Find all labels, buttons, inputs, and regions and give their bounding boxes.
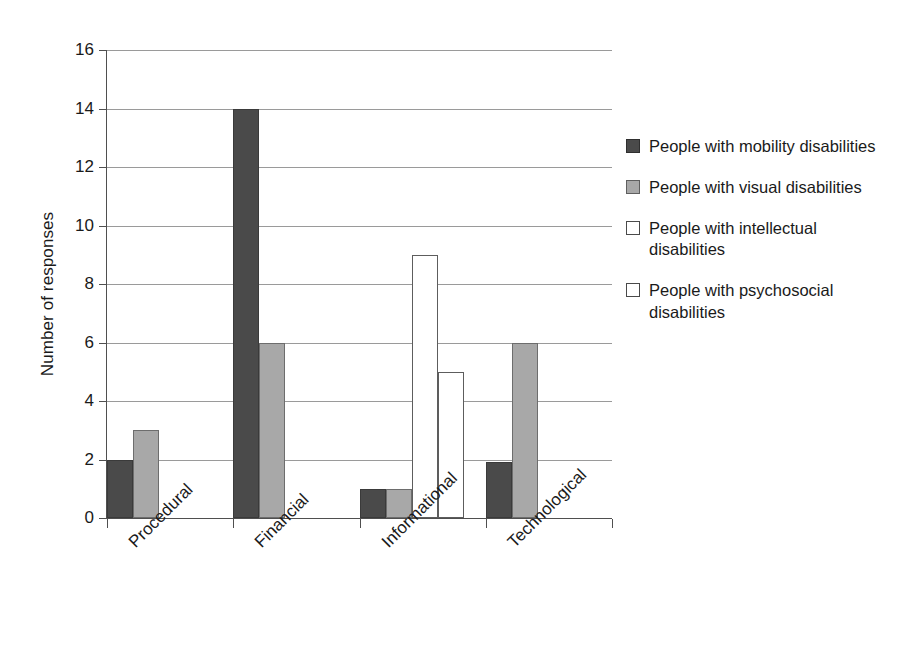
legend-label: People with intellectual disabilities	[649, 218, 879, 262]
x-tick-mark	[107, 519, 108, 528]
y-tick-mark	[99, 167, 106, 168]
legend-item[interactable]: People with intellectual disabilities	[626, 218, 898, 262]
y-tick-mark	[99, 401, 106, 402]
bar	[486, 462, 512, 518]
legend-swatch-icon	[626, 283, 640, 297]
y-tick-label: 10	[54, 217, 94, 234]
y-tick-label: 0	[54, 509, 94, 526]
y-tick-label: 8	[54, 275, 94, 292]
y-tick-label-wrap: 10	[50, 226, 94, 227]
bar	[107, 460, 133, 519]
plot-area	[107, 50, 612, 518]
legend-label: People with mobility disabilities	[649, 136, 876, 158]
bar	[133, 430, 159, 518]
y-tick-label-wrap: 2	[50, 460, 94, 461]
legend-label: People with psychosocial disabilities	[649, 280, 879, 324]
bar-chart: Number of responses 1614121086420 Proced…	[0, 0, 907, 655]
y-tick-label: 12	[54, 158, 94, 175]
y-tick-mark	[99, 109, 106, 110]
x-tick-mark	[486, 519, 487, 528]
x-tick-mark	[360, 519, 361, 528]
bar	[259, 343, 285, 519]
y-tick-label-wrap: 8	[50, 284, 94, 285]
x-tick-mark	[612, 519, 613, 528]
y-tick-mark	[99, 284, 106, 285]
y-tick-mark	[99, 50, 106, 51]
y-tick-mark	[99, 460, 106, 461]
y-tick-label-wrap: 6	[50, 343, 94, 344]
legend-item[interactable]: People with visual disabilities	[626, 177, 898, 199]
legend-label: People with visual disabilities	[649, 177, 862, 199]
legend-item[interactable]: People with mobility disabilities	[626, 136, 898, 158]
y-tick-label-wrap: 16	[50, 50, 94, 51]
bar	[512, 343, 538, 519]
bar-group	[360, 50, 486, 518]
y-tick-label: 6	[54, 334, 94, 351]
x-tick-mark	[233, 519, 234, 528]
bar-group	[233, 50, 359, 518]
y-tick-label: 4	[54, 392, 94, 409]
bar-group	[107, 50, 233, 518]
y-tick-label-wrap: 4	[50, 401, 94, 402]
y-tick-label: 2	[54, 451, 94, 468]
bar-group	[486, 50, 612, 518]
bar	[360, 489, 386, 518]
legend-swatch-icon	[626, 180, 640, 194]
legend-swatch-icon	[626, 139, 640, 153]
legend-swatch-icon	[626, 221, 640, 235]
y-tick-mark	[99, 343, 106, 344]
y-tick-label: 14	[54, 100, 94, 117]
y-tick-label-wrap: 0	[50, 518, 94, 519]
y-tick-label: 16	[54, 41, 94, 58]
y-tick-mark	[99, 226, 106, 227]
chart-legend: People with mobility disabilitiesPeople …	[626, 136, 898, 343]
y-tick-mark	[99, 518, 106, 519]
legend-item[interactable]: People with psychosocial disabilities	[626, 280, 898, 324]
y-tick-label-wrap: 14	[50, 109, 94, 110]
y-tick-label-wrap: 12	[50, 167, 94, 168]
bar	[233, 109, 259, 519]
bar	[412, 255, 438, 518]
